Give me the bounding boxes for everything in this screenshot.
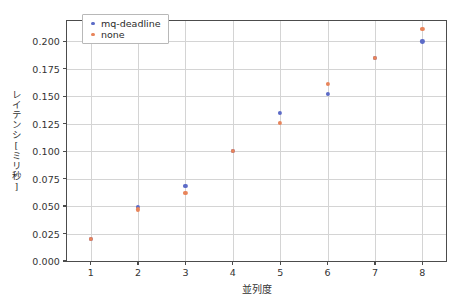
y-axis-tick-label: 0.100 bbox=[32, 146, 60, 157]
y-axis-tick bbox=[63, 233, 67, 234]
y-axis-tick bbox=[63, 178, 67, 179]
scatter-chart-figure: 0.0000.0250.0500.0750.1000.1250.1500.175… bbox=[0, 0, 461, 297]
gridline-horizontal bbox=[67, 206, 446, 207]
gridline-vertical bbox=[138, 21, 139, 261]
x-axis-tick bbox=[185, 261, 186, 265]
y-axis-tick-label: 0.050 bbox=[32, 201, 60, 212]
gridline-vertical bbox=[422, 21, 423, 261]
data-point bbox=[136, 207, 140, 211]
y-axis-tick bbox=[63, 123, 67, 124]
data-point bbox=[183, 191, 187, 195]
gridline-vertical bbox=[185, 21, 186, 261]
x-axis-tick bbox=[374, 261, 375, 265]
y-axis-label: レイテンシ[ミリ秒] bbox=[9, 20, 23, 262]
y-axis-tick-label: 0.200 bbox=[32, 36, 60, 47]
gridline-horizontal bbox=[67, 234, 446, 235]
x-axis-tick-label: 3 bbox=[182, 267, 188, 278]
gridline-horizontal bbox=[67, 179, 446, 180]
y-axis-tick bbox=[63, 260, 67, 261]
y-axis-tick-label: 0.125 bbox=[32, 118, 60, 129]
gridline-vertical bbox=[91, 21, 92, 261]
data-point bbox=[278, 111, 282, 115]
gridline-vertical bbox=[328, 21, 329, 261]
data-point bbox=[420, 27, 424, 31]
x-axis-tick bbox=[232, 261, 233, 265]
x-axis-tick-label: 5 bbox=[277, 267, 283, 278]
plot-area: 0.0000.0250.0500.0750.1000.1250.1500.175… bbox=[66, 20, 447, 262]
y-axis-tick bbox=[63, 96, 67, 97]
data-point bbox=[89, 237, 93, 241]
y-axis-tick-label: 0.175 bbox=[32, 63, 60, 74]
y-axis-tick-label: 0.150 bbox=[32, 91, 60, 102]
y-axis-tick bbox=[63, 68, 67, 69]
x-axis-tick-label: 8 bbox=[419, 267, 425, 278]
data-point bbox=[325, 82, 329, 86]
legend-marker-icon bbox=[87, 33, 99, 36]
chart-legend: mq-deadlinenone bbox=[82, 14, 169, 44]
y-axis-tick bbox=[63, 41, 67, 42]
gridline-horizontal bbox=[67, 96, 446, 97]
x-axis-tick-label: 4 bbox=[230, 267, 236, 278]
y-axis-tick-label: 0.075 bbox=[32, 173, 60, 184]
legend-marker-icon bbox=[87, 22, 99, 25]
x-axis-tick bbox=[327, 261, 328, 265]
y-axis-tick bbox=[63, 205, 67, 206]
x-axis-tick-label: 1 bbox=[88, 267, 94, 278]
legend-item: mq-deadline bbox=[87, 18, 161, 29]
x-axis-tick bbox=[137, 261, 138, 265]
x-axis-tick bbox=[90, 261, 91, 265]
gridline-horizontal bbox=[67, 151, 446, 152]
data-point bbox=[183, 184, 187, 188]
gridline-horizontal bbox=[67, 69, 446, 70]
x-axis-tick-label: 7 bbox=[372, 267, 378, 278]
legend-item-label: none bbox=[101, 29, 125, 40]
data-point bbox=[420, 39, 424, 43]
data-point bbox=[373, 56, 377, 60]
data-point bbox=[231, 149, 235, 153]
y-axis-tick bbox=[63, 151, 67, 152]
y-axis-tick-label: 0.000 bbox=[32, 256, 60, 267]
x-axis-tick bbox=[280, 261, 281, 265]
legend-item-label: mq-deadline bbox=[101, 18, 161, 29]
gridline-horizontal bbox=[67, 124, 446, 125]
x-axis-tick-label: 6 bbox=[325, 267, 331, 278]
legend-item: none bbox=[87, 29, 161, 40]
x-axis-tick bbox=[422, 261, 423, 265]
gridline-vertical bbox=[233, 21, 234, 261]
y-axis-tick-label: 0.025 bbox=[32, 228, 60, 239]
gridline-vertical bbox=[280, 21, 281, 261]
x-axis-tick-label: 2 bbox=[135, 267, 141, 278]
x-axis-label: 並列度 bbox=[66, 281, 447, 296]
